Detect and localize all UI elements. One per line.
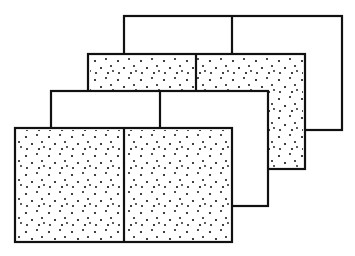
panel-1-front <box>15 128 232 242</box>
layered-panels-diagram <box>0 0 355 256</box>
diagram-canvas <box>0 0 355 256</box>
